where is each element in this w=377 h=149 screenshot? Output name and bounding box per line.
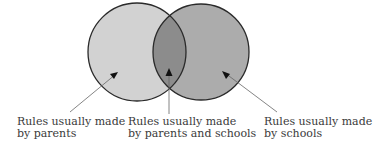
label-parents-and-schools: Rules usually made by parents and school… — [128, 116, 256, 140]
label-line: by schools — [264, 128, 372, 140]
label-parents: Rules usually made by parents — [17, 116, 125, 140]
label-line: by parents — [17, 128, 125, 140]
arrow-schools — [222, 71, 277, 112]
label-line: by parents and schools — [128, 128, 256, 140]
label-schools: Rules usually made by schools — [264, 116, 372, 140]
